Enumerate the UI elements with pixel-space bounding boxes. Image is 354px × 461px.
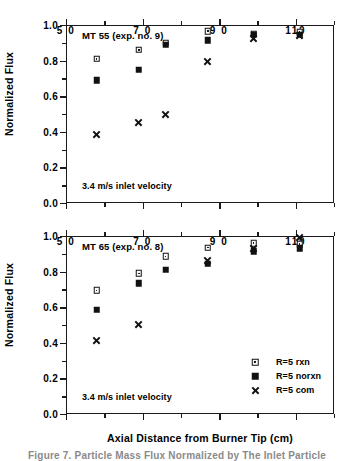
x-tick-major bbox=[143, 414, 144, 420]
x-tick-major bbox=[143, 203, 144, 209]
marker-open-square bbox=[204, 244, 211, 251]
marker-open-square bbox=[162, 253, 169, 260]
y-tick-minor bbox=[62, 396, 66, 397]
legend-item-com: R=5 com bbox=[248, 383, 334, 397]
x-tick-label: 5 0 bbox=[57, 25, 76, 36]
y-tick-minor bbox=[62, 185, 66, 186]
legend-item-norxn: R=5 norxn bbox=[248, 369, 334, 383]
x-tick-minor-top bbox=[257, 232, 258, 236]
y-tick-minor bbox=[62, 254, 66, 255]
x-tick-label: 7 0 bbox=[133, 236, 152, 247]
marker-open-square bbox=[93, 56, 100, 63]
x-tick-minor-top bbox=[334, 21, 335, 25]
x-tick-minor bbox=[181, 203, 182, 207]
marker-filled-square bbox=[204, 37, 211, 44]
y-tick-label: 0.2 bbox=[43, 373, 58, 384]
figure-caption: Figure 7. Particle Mass Flux Normalized … bbox=[0, 450, 354, 461]
y-tick-minor bbox=[62, 114, 66, 115]
x-tick-major bbox=[66, 203, 67, 209]
chart-panel-top: MT 55 (exp. no. 9) 3.4 m/s inlet velocit… bbox=[66, 25, 334, 203]
x-tick-minor bbox=[104, 414, 105, 418]
marker-cross-x bbox=[134, 118, 143, 127]
marker-filled-square bbox=[162, 41, 169, 48]
marker-filled-square bbox=[93, 77, 100, 84]
x-tick-label: 7 0 bbox=[133, 25, 152, 36]
y-tick-label: 0.6 bbox=[43, 91, 58, 102]
marker-cross-x bbox=[203, 57, 212, 66]
legend: R=5 rxn R=5 norxn R=5 com bbox=[248, 355, 334, 397]
x-tick-major bbox=[296, 203, 297, 209]
legend-label-norxn: R=5 norxn bbox=[276, 371, 321, 381]
x-tick-minor bbox=[334, 414, 335, 418]
x-tick-major bbox=[219, 203, 220, 209]
x-tick-minor-top bbox=[181, 21, 182, 25]
open-square-icon bbox=[248, 356, 262, 368]
cross-x-icon bbox=[248, 384, 262, 396]
y-tick-major bbox=[60, 61, 66, 62]
panel-annotation-bottom: 3.4 m/s inlet velocity bbox=[82, 392, 172, 402]
x-tick-minor-top bbox=[257, 21, 258, 25]
y-tick-label: 0.0 bbox=[43, 198, 58, 209]
marker-cross-x bbox=[203, 256, 212, 265]
y-tick-minor bbox=[62, 361, 66, 362]
legend-label-rxn: R=5 rxn bbox=[276, 357, 310, 367]
y-tick-label: 0.6 bbox=[43, 302, 58, 313]
y-tick-minor bbox=[62, 78, 66, 79]
marker-cross-x bbox=[92, 130, 101, 139]
marker-open-square bbox=[204, 28, 211, 35]
marker-cross-x bbox=[249, 244, 258, 253]
marker-filled-square bbox=[93, 307, 100, 314]
x-tick-major bbox=[66, 414, 67, 420]
x-tick-label: 5 0 bbox=[57, 236, 76, 247]
y-tick-major bbox=[60, 378, 66, 379]
marker-cross-x bbox=[295, 233, 304, 242]
y-tick-major bbox=[60, 96, 66, 97]
y-tick-major bbox=[60, 343, 66, 344]
panel-annotation-top: 3.4 m/s inlet velocity bbox=[82, 181, 172, 191]
y-tick-label: 0.8 bbox=[43, 55, 58, 66]
y-tick-major bbox=[60, 307, 66, 308]
filled-square-icon bbox=[248, 370, 262, 382]
x-tick-minor bbox=[257, 203, 258, 207]
y-tick-minor bbox=[62, 325, 66, 326]
marker-cross-x bbox=[161, 110, 170, 119]
y-tick-major bbox=[60, 272, 66, 273]
marker-open-square bbox=[93, 287, 100, 294]
y-tick-label: 0.0 bbox=[43, 409, 58, 420]
y-tick-major bbox=[60, 132, 66, 133]
marker-cross-x bbox=[249, 34, 258, 43]
y-tick-major bbox=[60, 167, 66, 168]
marker-cross-x bbox=[134, 320, 143, 329]
marker-filled-square bbox=[135, 66, 142, 73]
x-tick-minor bbox=[257, 414, 258, 418]
plot-frame-top bbox=[66, 25, 334, 203]
x-tick-label: 9 0 bbox=[210, 236, 229, 247]
x-tick-major bbox=[219, 414, 220, 420]
marker-filled-square bbox=[296, 245, 303, 252]
x-tick-label: 9 0 bbox=[210, 25, 229, 36]
y-axis-title-bottom: Normalized Flux bbox=[3, 230, 15, 380]
y-tick-label: 0.4 bbox=[43, 126, 58, 137]
x-tick-minor-top bbox=[104, 232, 105, 236]
x-tick-minor bbox=[334, 203, 335, 207]
y-tick-label: 0.2 bbox=[43, 162, 58, 173]
marker-cross-x bbox=[295, 31, 304, 40]
x-tick-minor-top bbox=[104, 21, 105, 25]
x-tick-minor-top bbox=[334, 232, 335, 236]
y-tick-label: 0.4 bbox=[43, 337, 58, 348]
y-tick-minor bbox=[62, 43, 66, 44]
y-axis-title-top: Normalized Flux bbox=[3, 19, 15, 169]
x-tick-minor bbox=[181, 414, 182, 418]
marker-cross-x bbox=[92, 336, 101, 345]
x-axis-title: Axial Distance from Burner Tip (cm) bbox=[66, 432, 334, 444]
marker-filled-square bbox=[162, 267, 169, 274]
y-tick-label: 0.8 bbox=[43, 266, 58, 277]
marker-open-square bbox=[135, 47, 142, 54]
x-tick-major bbox=[296, 414, 297, 420]
x-tick-minor bbox=[104, 203, 105, 207]
marker-filled-square bbox=[135, 280, 142, 287]
legend-item-rxn: R=5 rxn bbox=[248, 355, 334, 369]
y-tick-minor bbox=[62, 289, 66, 290]
marker-open-square bbox=[135, 270, 142, 277]
